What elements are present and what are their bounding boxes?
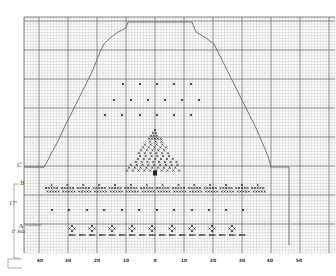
label-17-inch: 17" (9, 201, 18, 206)
x-axis-tick-label: 40 (267, 258, 273, 263)
x-axis-tick-label: 30 (239, 258, 245, 263)
x-axis-tick-label: 0 (153, 258, 156, 263)
knitting-chart (0, 0, 336, 276)
x-axis-tick-label: 10 (123, 258, 129, 263)
x-axis-tick-label: 10 (181, 258, 187, 263)
x-axis-tick-label: 20 (210, 258, 216, 263)
grid-minor-lines (24, 17, 335, 253)
x-axis-tick-label: 20 (94, 258, 100, 263)
x-axis-tick-label: 30 (65, 258, 71, 263)
label-a-note: (stitches) (25, 224, 42, 228)
stitch-motifs (45, 83, 266, 236)
label-c: C (17, 162, 22, 168)
x-axis-tick-label: 40 (37, 258, 43, 263)
label-b: B (20, 180, 24, 186)
x-axis-tick-label: 50 (296, 258, 302, 263)
label-rib: 1" Rib (11, 230, 25, 235)
